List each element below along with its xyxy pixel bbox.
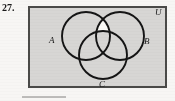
set-label-c: C	[99, 80, 105, 89]
set-label-b: B	[144, 37, 150, 46]
figure-page: 27.	[0, 0, 175, 101]
universe-label: U	[155, 8, 162, 17]
venn-diagram-figure	[27, 5, 168, 89]
problem-number: 27.	[2, 2, 15, 13]
set-label-a: A	[49, 36, 55, 45]
universe-rectangle	[29, 7, 166, 87]
venn-diagram-svg	[27, 5, 168, 89]
footer-rule	[22, 96, 66, 98]
